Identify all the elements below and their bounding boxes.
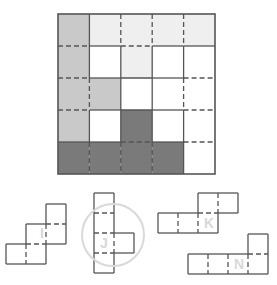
piece-k[interactable]: K xyxy=(158,193,238,233)
piece-cell xyxy=(178,213,198,233)
piece-label: J xyxy=(100,235,108,251)
grid-cell xyxy=(121,14,152,46)
grid-cell xyxy=(152,78,183,110)
piece-cell xyxy=(26,244,46,264)
grid-cell xyxy=(152,142,183,174)
piece-label: K xyxy=(204,215,214,231)
piece-j[interactable]: J xyxy=(82,193,144,273)
piece-cell xyxy=(46,224,66,244)
grid-cell xyxy=(184,78,215,110)
grid-cell xyxy=(58,14,89,46)
piece-cell xyxy=(198,193,218,213)
grid-cell xyxy=(58,46,89,78)
grid-cell xyxy=(152,14,183,46)
piece-n[interactable]: N xyxy=(188,234,268,274)
grid-cell xyxy=(89,78,120,110)
piece-cell xyxy=(248,234,268,254)
piece-label: N xyxy=(234,256,244,272)
grid-cell xyxy=(89,110,120,142)
grid-cell xyxy=(58,110,89,142)
piece-cell xyxy=(94,193,114,213)
piece-cell xyxy=(46,204,66,224)
grid-cell xyxy=(184,110,215,142)
grid-cell xyxy=(121,46,152,78)
piece-cell xyxy=(248,254,268,274)
grid-cell xyxy=(121,142,152,174)
piece-label: I xyxy=(40,225,44,241)
grid-cell xyxy=(58,78,89,110)
piece-cell xyxy=(208,254,228,274)
grid-cell xyxy=(89,14,120,46)
grid-cell xyxy=(58,142,89,174)
candidate-pieces: IJKN xyxy=(6,193,268,274)
target-grid xyxy=(58,14,215,174)
grid-cell xyxy=(184,142,215,174)
piece-cell xyxy=(218,193,238,213)
piece-cell xyxy=(6,244,26,264)
grid-cell xyxy=(152,46,183,78)
grid-cell xyxy=(184,46,215,78)
puzzle-diagram: IJKN xyxy=(0,0,277,285)
piece-cell xyxy=(188,254,208,274)
grid-cell xyxy=(89,142,120,174)
grid-cell xyxy=(121,110,152,142)
grid-cell xyxy=(152,110,183,142)
grid-cell xyxy=(184,14,215,46)
piece-cell xyxy=(158,213,178,233)
piece-i[interactable]: I xyxy=(6,204,66,264)
piece-cell xyxy=(114,233,134,253)
piece-cell xyxy=(94,253,114,273)
grid-cell xyxy=(121,78,152,110)
grid-cell xyxy=(89,46,120,78)
piece-cell xyxy=(94,213,114,233)
